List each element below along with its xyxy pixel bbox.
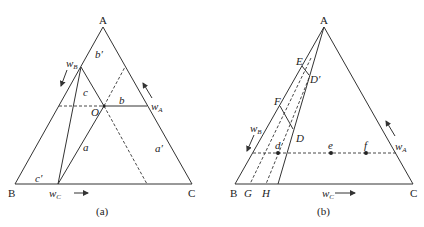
point-Dprime-label: D′ (309, 73, 321, 85)
axis-wB-label-b: wB (250, 122, 262, 136)
triangle-b (235, 27, 413, 184)
line-A-to-base (278, 27, 324, 184)
point-G-label: G (244, 187, 252, 199)
point-O (102, 104, 105, 107)
arrow-wb (61, 70, 67, 86)
point-E-label: E (295, 55, 303, 67)
point-d (276, 151, 280, 155)
point-D-label: D (295, 132, 304, 144)
point-e-label: e (328, 139, 333, 151)
segment-b-prime-label: b′ (95, 48, 104, 60)
point-d-label: d (275, 139, 281, 151)
vertex-B-label: B (8, 187, 15, 199)
axis-wC-label: wC (49, 187, 61, 201)
dash-to-H (266, 78, 309, 184)
point-f (364, 151, 368, 155)
point-O-label: O (91, 106, 99, 118)
axis-wA-label-b: wA (395, 140, 407, 154)
vertex-A-label-b: A (320, 14, 328, 26)
caption-b: (b) (317, 205, 330, 218)
segment-a-prime-label: a′ (155, 142, 164, 154)
point-H-label: H (261, 187, 271, 199)
segment-a-label: a (83, 141, 89, 153)
dash-down (104, 106, 147, 184)
vertex-A-label: A (99, 14, 107, 26)
segment-c-prime-label: c′ (35, 172, 43, 184)
dash-to-G (250, 58, 311, 184)
figure-b: A B C E D′ F D d e f G H wB wA wC (b) (230, 14, 417, 218)
axis-wA-label: wA (151, 100, 163, 114)
figure-a: A B C O b′ c b a a′ c′ wB wA wC (a) (8, 14, 195, 218)
point-e (329, 151, 333, 155)
vertex-C-label: C (188, 187, 195, 199)
caption-a: (a) (96, 205, 109, 218)
arrow-wa (143, 83, 152, 98)
vertex-C-label-b: C (410, 187, 417, 199)
vertex-B-label-b: B (230, 187, 237, 199)
ternary-diagrams: A B C O b′ c b a a′ c′ wB wA wC (a) (0, 0, 424, 227)
axis-wC-label-b: wC (322, 187, 334, 201)
point-F-label: F (273, 95, 281, 107)
point-f-label: f (364, 139, 369, 151)
arrow-wa-b (386, 121, 395, 136)
segment-b-label: b (119, 94, 125, 106)
arrow-wb-b (247, 135, 254, 151)
axis-wB-label: wB (66, 57, 78, 71)
segment-c-label: c (83, 86, 88, 98)
